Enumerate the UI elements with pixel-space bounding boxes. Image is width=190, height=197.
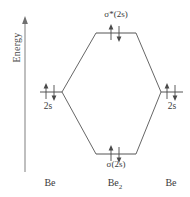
- electron-up-arrowhead-icon: [44, 83, 49, 89]
- species-label-right-text: Be: [165, 177, 176, 188]
- electron-down-arrowhead-icon: [117, 37, 122, 43]
- orbital-label-2s-right: 2s: [152, 101, 190, 111]
- species-label-left: Be: [30, 177, 70, 191]
- electron-up-arrowhead-icon: [165, 83, 170, 89]
- orbital-label-sigma-2s: σ(2s): [78, 159, 154, 169]
- orbital-label-2s-left: 2s: [28, 101, 68, 111]
- electron-up-arrowhead-icon: [109, 24, 114, 30]
- mo-diagram-figure: Energy: [0, 0, 190, 197]
- energy-level-bars: [40, 33, 183, 154]
- tie-line-left-upper: [62, 33, 96, 92]
- electron-up-arrowhead-icon: [109, 145, 114, 151]
- species-label-right: Be: [152, 177, 190, 191]
- species-label-middle: Be2: [95, 177, 135, 191]
- orbital-label-sigma-2s-text: σ(2s): [107, 159, 126, 169]
- orbital-label-sigma-star-2s-text: σ*(2s): [104, 9, 127, 19]
- species-label-middle-text: Be: [108, 177, 119, 188]
- species-label-left-text: Be: [44, 177, 55, 188]
- orbital-label-2s-left-text: 2s: [44, 101, 52, 111]
- species-label-middle-subscript: 2: [119, 183, 123, 191]
- tie-line-right-upper: [136, 33, 161, 92]
- orbital-label-sigma-star-2s: σ*(2s): [78, 9, 154, 19]
- correlation-lines: [62, 33, 161, 154]
- orbital-label-2s-right-text: 2s: [168, 101, 176, 111]
